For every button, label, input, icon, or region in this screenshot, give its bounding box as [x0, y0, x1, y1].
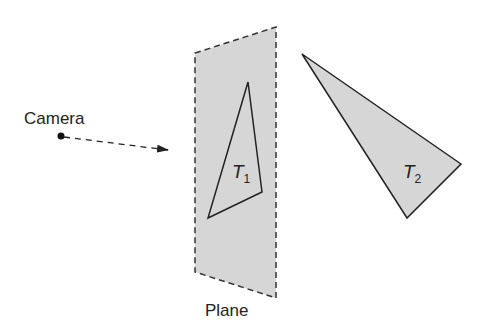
camera-ray-arrow [64, 137, 168, 150]
camera-label: Camera [24, 109, 85, 128]
t2-label-sub: 2 [415, 172, 422, 186]
triangle-t2 [302, 54, 461, 218]
t1-label-sub: 1 [244, 172, 251, 186]
diagram-canvas: Camera Plane T1 T2 [0, 0, 486, 330]
camera-point [58, 133, 65, 140]
plane-label: Plane [205, 301, 248, 320]
